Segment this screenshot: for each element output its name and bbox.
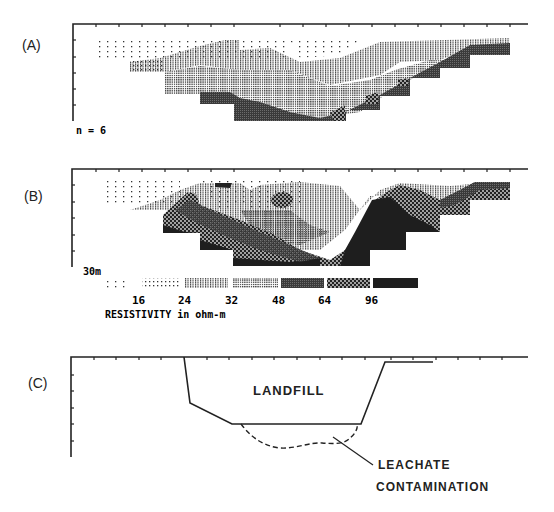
legend-tick-24: 24 xyxy=(178,294,192,307)
legend-swatch-hex-dots xyxy=(327,278,370,288)
legend-tick-16: 16 xyxy=(132,294,146,307)
legend-swatch-solid-dark xyxy=(373,278,418,288)
panel-c-frame xyxy=(71,357,528,457)
legend-tick-32: 32 xyxy=(225,294,238,307)
legend-tick-48: 48 xyxy=(272,294,285,307)
legend-title: RESISTIVITY in ohm-m xyxy=(105,309,225,320)
panel-c-ticks xyxy=(71,357,502,441)
leachate-label-line2: CONTAMINATION xyxy=(376,480,489,494)
legend-swatch-grid xyxy=(233,278,278,288)
leachate-plume-boundary xyxy=(241,424,357,448)
panel-b-depth-annotation: 30m xyxy=(83,266,101,277)
legend-tick-64: 64 xyxy=(318,294,332,307)
figure-canvas: n = 6 30m xyxy=(0,0,554,512)
panel-a-depth-annotation: n = 6 xyxy=(76,125,106,136)
panel-b-section xyxy=(72,169,528,267)
landfill-label: LANDFILL xyxy=(253,383,325,398)
panel-c-section xyxy=(71,357,528,465)
leachate-label-line1: LEACHATE xyxy=(378,458,450,472)
legend-swatch-vertical-lines xyxy=(185,278,228,288)
panel-a-section xyxy=(73,24,528,121)
leachate-leader-line xyxy=(333,437,373,465)
legend-swatch-sparse-dots xyxy=(102,278,128,288)
resistivity-legend xyxy=(102,278,418,288)
legend-swatch-dense-dots xyxy=(142,278,180,288)
legend-tick-96: 96 xyxy=(365,294,379,307)
legend-tick-labels: 16 24 32 48 64 96 xyxy=(132,294,379,307)
legend-swatch-dark-stipple xyxy=(281,278,324,288)
